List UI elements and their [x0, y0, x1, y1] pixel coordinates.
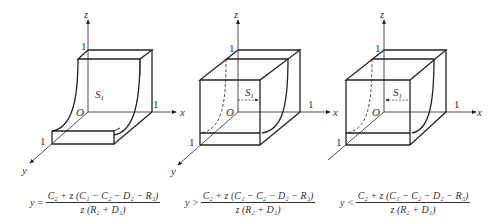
z-tick-label: 1	[229, 42, 235, 54]
condition-lhs: y =	[30, 197, 44, 208]
z-axis-label: z	[83, 8, 89, 20]
diagram-less-labels: z 1 S1 O 1 x 1	[336, 8, 482, 148]
y-axis	[30, 112, 88, 163]
z-tick-label: 1	[375, 42, 381, 54]
diagram-equal-labels: z 1 S1 O 1 x 1 y	[21, 8, 185, 176]
denominator: z (R₂ + D₁)	[236, 203, 281, 215]
diagram-greater-labels: z 1 S1 O 1 x 1 y	[170, 8, 338, 177]
numerator: C₂ + z (C₁ − C₂ − D₂ − R₃)	[201, 190, 316, 203]
z-axis-label: z	[233, 8, 239, 20]
denominator: z (R₂ + D₁)	[391, 203, 436, 215]
denominator: z (R₂ + D₁)	[81, 203, 126, 215]
x-tick-label: 1	[153, 98, 159, 110]
fraction: C₂ + z (C₁ − C₂ − D₂ − R₃) z (R₂ + D₁)	[201, 190, 316, 215]
z-axis-label: z	[379, 8, 385, 20]
y-tick-label: 1	[189, 136, 195, 148]
x-tick-label: 1	[454, 98, 460, 110]
condition-equal: y = C₂ + z (C₁ − C₂ − D₂ − R₃) z (R₂ + D…	[30, 190, 195, 215]
y-tick-label: 1	[336, 136, 342, 148]
x-axis-label: x	[179, 106, 185, 118]
numerator: C₂ + z (C₁ − C₂ − D₂ − R₃)	[46, 190, 161, 203]
condition-lhs: y <	[340, 197, 354, 208]
condition-lhs: y >	[185, 197, 199, 208]
z-tick-label: 1	[81, 40, 87, 52]
origin-label: O	[226, 106, 234, 118]
y-tick-label: 1	[40, 135, 46, 147]
x-axis-label: x	[476, 106, 482, 118]
phase-diagrams: z 1 S1 O 1 x 1 y z 1 S1 O 1 x 1	[0, 0, 495, 222]
condition-less: y < C₂ + z (C₁ − C₂ − D₂ − R₃) z (R₂ + D…	[340, 190, 495, 215]
diagram-equal	[30, 20, 176, 163]
condition-greater: y > C₂ + z (C₁ − C₂ − D₂ − R₃) z (R₂ + D…	[185, 190, 350, 215]
x-tick-label: 1	[308, 98, 314, 110]
diagram-less	[328, 20, 476, 160]
surface-label: S1	[245, 86, 254, 100]
fraction: C₂ + z (C₁ − C₂ − D₂ − R₃) z (R₂ + D₁)	[356, 190, 471, 215]
y-axis-label: y	[170, 165, 176, 177]
origin-label: O	[372, 106, 380, 118]
origin-label: O	[76, 106, 84, 118]
surface-label: S1	[95, 88, 104, 102]
fraction: C₂ + z (C₁ − C₂ − D₂ − R₃) z (R₂ + D₁)	[46, 190, 161, 215]
diagram-greater	[178, 20, 330, 165]
surface-label: S1	[393, 86, 402, 100]
y-axis-label: y	[21, 164, 27, 176]
numerator: C₂ + z (C₁ − C₂ − D₂ − R₃)	[356, 190, 471, 203]
x-axis-label: x	[332, 106, 338, 118]
